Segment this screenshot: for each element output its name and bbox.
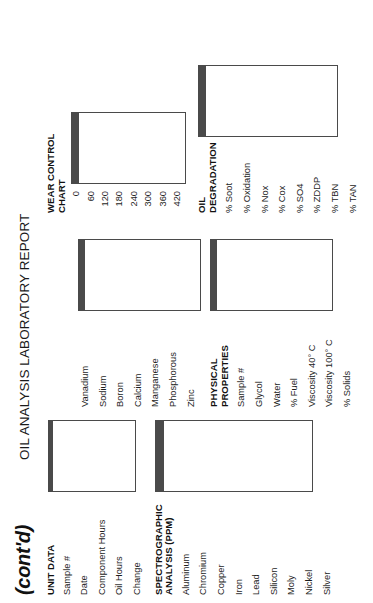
oil-analysis-report-page: (cont'd) OIL ANALYSIS LABORATORY REPORT … [0,0,373,603]
axis-tick: 180 [114,191,128,213]
oil-degradation-entry-grid[interactable] [198,65,338,137]
rotated-page-canvas: (cont'd) OIL ANALYSIS LABORATORY REPORT … [0,0,373,603]
section-unit-data: UNIT DATA Sample # Date Component Hours … [46,415,148,595]
physical-properties-entry-grid[interactable] [210,239,333,311]
row-label: Sodium [96,375,109,407]
section-spectrographic-analysis: SPECTROGRAPHIC ANALYSIS (PPM) Aluminum C… [154,415,338,595]
list-item: % TAN [346,8,364,213]
wear-control-chart: 0 60 120 180 240 300 360 420 [71,8,191,213]
column-middle: Vanadium Sodium Boron Calcium Manganese … [46,221,364,407]
axis-tick: 420 [172,191,186,213]
axis-tick: 360 [158,191,172,213]
table-row [216,240,217,310]
spectrographic-continued-entry-grid[interactable] [78,239,201,311]
axis-tick: 60 [86,191,100,213]
wear-control-chart-plot-grid[interactable] [71,112,186,184]
section-wear-control-chart: WEAR CONTROL CHART 0 60 120 180 240 300 … [46,8,191,213]
column-right: WEAR CONTROL CHART 0 60 120 180 240 300 … [46,8,369,213]
section-heading-wear-control-chart: WEAR CONTROL CHART [46,8,67,213]
axis-tick: 0 [71,191,85,213]
axis-tick: 240 [129,191,143,213]
row-label: Vanadium [78,366,91,407]
axis-tick: 120 [100,191,114,213]
row-label: Viscosity 40° C [305,345,318,407]
row-label: Sample # [60,556,73,595]
unit-data-entry-grid[interactable] [48,420,136,492]
row-label: Moly [284,575,297,595]
row-label: Chromium [196,552,209,595]
row-label: % Fuel [287,378,300,407]
column-left: UNIT DATA Sample # Date Component Hours … [46,415,343,595]
row-label: % Cox [275,186,288,213]
spectrographic-entry-grid[interactable] [155,420,313,492]
axis-tick: 300 [143,191,157,213]
row-label: Calcium [131,373,144,407]
table-row [163,421,164,491]
table-row [78,113,79,183]
row-label: Silver [320,572,333,595]
wear-control-chart-axis-ticks: 0 60 120 180 240 300 360 420 [71,191,186,213]
row-label: Nickel [302,570,315,595]
row-label: Manganese [148,358,161,407]
row-label: Zinc [184,389,197,407]
row-label: % Nox [258,186,271,213]
row-label: Water [270,383,283,407]
row-label: Lead [249,574,262,595]
row-label: Date [77,575,90,595]
row-label: Phosphorous [166,352,179,407]
row-label: % ZDDP [310,177,323,213]
row-label: Aluminum [179,554,192,595]
page-title: OIL ANALYSIS LABORATORY REPORT [17,214,32,460]
row-label: % Solids [340,371,353,407]
table-row [52,421,53,491]
row-label: Silicon [267,568,280,595]
continued-marker: (cont'd) [12,525,35,595]
row-label: % TAN [346,184,359,213]
section-physical-properties: PHYSICAL PROPERTIES Sample # Glycol Wate… [209,221,357,407]
row-label: Component Hours [95,520,108,595]
row-label: Copper [214,565,227,596]
row-label: Iron [232,579,245,595]
row-label: Viscosity 100° C [322,339,335,407]
row-label: % Soot [222,183,235,213]
row-label: % Oxidation [240,163,253,213]
list-item: % Solids [340,221,358,407]
section-spectrographic-continued: Vanadium Sodium Boron Calcium Manganese … [78,221,201,407]
table-row [205,66,206,136]
section-oil-degradation: OIL DEGRADATION % Soot % Oxidation % Nox… [197,8,363,213]
row-label: Boron [113,382,126,407]
row-label: Sample # [234,368,247,407]
row-label: % TBN [328,184,341,213]
list-item: Silver [320,415,338,595]
row-label: Glycol [252,381,265,407]
row-label: Oil Hours [112,556,125,595]
row-label: Change [130,562,143,595]
row-label: % SO4 [293,184,306,213]
table-row [84,240,85,310]
